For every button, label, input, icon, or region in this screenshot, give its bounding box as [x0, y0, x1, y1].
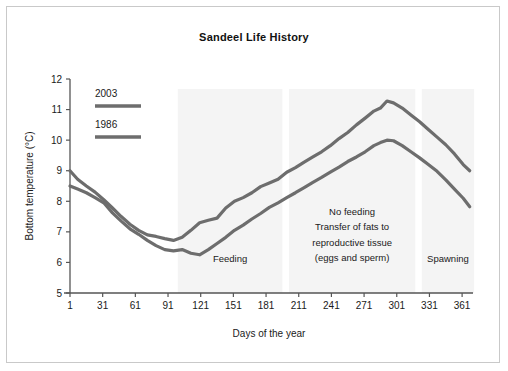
band-label: No feeding — [329, 206, 375, 217]
chart-legend: 20031986 — [95, 88, 141, 137]
y-tick-label: 8 — [56, 196, 62, 207]
x-tick-label: 61 — [130, 300, 142, 311]
band-label: Spawning — [427, 253, 469, 264]
x-tick-label: 301 — [388, 300, 405, 311]
x-tick-label: 121 — [192, 300, 209, 311]
y-tick-label: 7 — [56, 226, 62, 237]
y-tick-label: 10 — [51, 135, 63, 146]
figure-frame: Sandeel Life History 56789101112 1316191… — [6, 6, 500, 363]
y-tick-label: 6 — [56, 257, 62, 268]
x-tick-label: 211 — [291, 300, 307, 311]
band-label: Transfer of fats to — [315, 221, 389, 232]
y-tick-label: 9 — [56, 165, 62, 176]
x-tick-label: 331 — [421, 300, 438, 311]
x-tick-label: 91 — [162, 300, 174, 311]
x-axis-ticks: 1316191121151181211241271301331361 — [67, 293, 471, 311]
band-label: reproductive tissue — [312, 237, 392, 248]
x-tick-label: 271 — [356, 300, 373, 311]
x-tick-label: 1 — [67, 300, 73, 311]
x-tick-label: 31 — [97, 300, 109, 311]
y-axis-ticks: 56789101112 — [51, 74, 70, 299]
band-label: (eggs and sperm) — [315, 252, 389, 263]
y-tick-label: 5 — [56, 288, 62, 299]
x-tick-label: 361 — [454, 300, 471, 311]
x-axis-title: Days of the year — [233, 328, 306, 339]
x-tick-label: 181 — [258, 300, 275, 311]
x-tick-label: 151 — [225, 300, 242, 311]
legend-label-1986: 1986 — [95, 119, 118, 130]
y-axis-title: Bottom temperature (°C) — [24, 131, 35, 240]
legend-label-2003: 2003 — [95, 88, 118, 99]
y-tick-label: 12 — [51, 74, 63, 85]
band-label: Feeding — [213, 253, 247, 264]
y-tick-label: 11 — [52, 104, 63, 115]
chart-plot-area: 56789101112 1316191121151181211241271301… — [7, 7, 501, 364]
x-tick-label: 241 — [323, 300, 340, 311]
